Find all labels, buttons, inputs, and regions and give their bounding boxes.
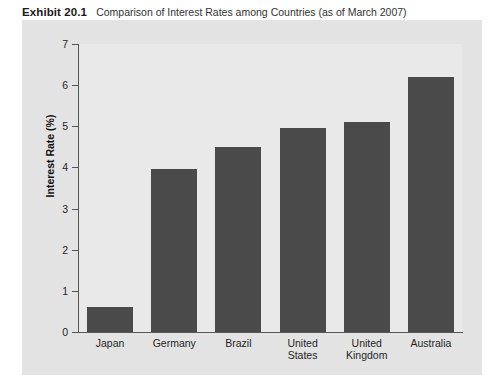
y-axis-tick-label: 2 <box>48 245 68 256</box>
y-axis-tick-label: 3 <box>48 204 68 215</box>
bar <box>151 169 197 332</box>
y-axis-tick-label: 0 <box>48 327 68 338</box>
category-label: Australia <box>388 338 474 350</box>
y-axis-tick-label: 6 <box>48 80 68 91</box>
exhibit-title: Comparison of Interest Rates among Count… <box>96 6 406 18</box>
bar <box>344 122 390 332</box>
y-axis-tick-label: 4 <box>48 162 68 173</box>
bar <box>408 77 454 332</box>
bar <box>280 128 326 332</box>
y-axis-line <box>78 44 79 333</box>
plot-area <box>79 44 462 332</box>
y-axis-tick-label: 5 <box>48 121 68 132</box>
y-axis-tick <box>72 126 78 127</box>
category-label-line: Australia <box>388 338 474 350</box>
y-axis-tick <box>72 167 78 168</box>
y-axis-tick-label: 7 <box>48 39 68 50</box>
y-axis-tick <box>72 209 78 210</box>
y-axis-tick <box>72 291 78 292</box>
chart-panel: Interest Rate (%) 01234567 JapanGermanyB… <box>22 20 482 375</box>
bar <box>87 307 133 332</box>
bar <box>215 147 261 332</box>
y-axis-tick <box>72 85 78 86</box>
category-label-line: Kingdom <box>324 350 410 362</box>
y-axis-tick <box>72 44 78 45</box>
exhibit-number: Exhibit 20.1 <box>22 6 87 18</box>
x-axis-line <box>78 332 463 333</box>
y-axis-tick <box>72 332 78 333</box>
y-axis-tick <box>72 250 78 251</box>
y-axis-tick-label: 1 <box>48 286 68 297</box>
exhibit-caption: Exhibit 20.1Comparison of Interest Rates… <box>22 2 492 18</box>
